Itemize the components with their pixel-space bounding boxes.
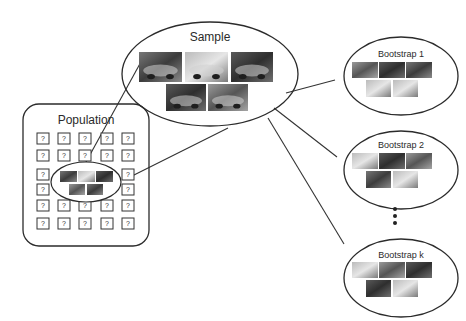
unknown-item: ? <box>122 184 134 195</box>
unknown-item: ? <box>58 150 70 161</box>
unknown-item: ? <box>79 218 91 229</box>
sample-to-bootstrapk-line <box>268 118 344 244</box>
car-thumbnail <box>87 184 103 195</box>
unknown-item: ? <box>58 218 70 229</box>
bootstrap-k-label: Bootstrap k <box>378 250 424 260</box>
unknown-item: ? <box>58 133 70 144</box>
car-thumbnail <box>352 62 378 78</box>
unknown-item: ? <box>122 218 134 229</box>
svg-text:?: ? <box>105 220 109 227</box>
svg-text:?: ? <box>83 220 87 227</box>
car-thumbnail <box>379 262 405 278</box>
unknown-item: ? <box>122 133 134 144</box>
unknown-item: ? <box>101 218 113 229</box>
car-thumbnail <box>406 62 432 78</box>
svg-text:?: ? <box>41 186 45 193</box>
unknown-item: ? <box>37 184 49 195</box>
sample-ellipse: Sample <box>122 22 298 126</box>
svg-text:?: ? <box>62 202 66 209</box>
svg-text:?: ? <box>83 135 87 142</box>
car-thumbnail <box>406 262 432 278</box>
car-thumbnail <box>231 52 273 82</box>
svg-text:?: ? <box>41 220 45 227</box>
car-thumbnail <box>352 153 378 169</box>
car-thumbnail <box>78 171 95 182</box>
svg-text:?: ? <box>62 152 66 159</box>
car-thumbnail <box>366 80 391 97</box>
car-thumbnail <box>406 153 432 169</box>
car-thumbnail <box>393 171 418 188</box>
unknown-item: ? <box>122 150 134 161</box>
sample-to-bootstrap2-line <box>274 108 337 157</box>
svg-text:?: ? <box>83 202 87 209</box>
unknown-item: ? <box>37 200 49 211</box>
unknown-item: ? <box>37 169 49 180</box>
bootstrap-2-label: Bootstrap 2 <box>378 140 424 150</box>
svg-text:?: ? <box>41 171 45 178</box>
svg-text:?: ? <box>126 171 130 178</box>
bootstrap-1-ellipse: Bootstrap 1 <box>344 37 458 115</box>
car-thumbnail <box>185 52 228 82</box>
bootstrap-k-ellipse: Bootstrap k <box>344 239 458 317</box>
svg-text:?: ? <box>41 152 45 159</box>
unknown-item: ? <box>79 133 91 144</box>
svg-text:?: ? <box>126 220 130 227</box>
car-thumbnail <box>208 84 248 111</box>
svg-text:?: ? <box>105 135 109 142</box>
svg-text:?: ? <box>83 152 87 159</box>
svg-text:?: ? <box>126 186 130 193</box>
svg-text:?: ? <box>126 135 130 142</box>
car-thumbnail <box>379 62 405 78</box>
svg-text:?: ? <box>62 220 66 227</box>
unknown-item: ? <box>37 218 49 229</box>
car-thumbnail <box>69 184 85 195</box>
svg-text:?: ? <box>41 135 45 142</box>
car-thumbnail <box>379 153 405 169</box>
unknown-item: ? <box>37 150 49 161</box>
car-thumbnail <box>366 171 391 188</box>
unknown-item: ? <box>37 133 49 144</box>
unknown-item: ? <box>58 200 70 211</box>
svg-text:?: ? <box>126 152 130 159</box>
bootstrap-2-ellipse: Bootstrap 2 <box>344 131 458 209</box>
unknown-item: ? <box>122 169 134 180</box>
unknown-item: ? <box>101 133 113 144</box>
svg-text:?: ? <box>126 202 130 209</box>
svg-text:?: ? <box>62 135 66 142</box>
car-thumbnail <box>96 171 113 182</box>
unknown-item: ? <box>79 150 91 161</box>
unknown-item: ? <box>122 200 134 211</box>
population-to-sample-line-2 <box>128 128 228 178</box>
sample-label: Sample <box>190 30 231 44</box>
car-thumbnail <box>366 280 391 297</box>
bootstrap-diagram: Population ? ? ? ? ? ? ? ? ? ? ? ? ? ? ?… <box>0 0 466 321</box>
ellipsis-dots <box>393 207 397 225</box>
car-thumbnail <box>393 280 418 297</box>
population-to-sample-line-1 <box>86 60 142 162</box>
svg-text:?: ? <box>105 202 109 209</box>
car-thumbnail <box>393 80 418 97</box>
population-sample-ellipse <box>51 162 121 202</box>
car-thumbnail <box>139 52 182 82</box>
unknown-item: ? <box>101 150 113 161</box>
svg-text:?: ? <box>105 152 109 159</box>
population-label: Population <box>58 113 115 127</box>
svg-text:?: ? <box>41 202 45 209</box>
sample-images <box>139 52 273 111</box>
car-thumbnail <box>166 84 206 111</box>
car-thumbnail <box>60 171 77 182</box>
unknown-item: ? <box>101 200 113 211</box>
population-box: Population ? ? ? ? ? ? ? ? ? ? ? ? ? ? ?… <box>23 104 149 246</box>
car-thumbnail <box>352 262 378 278</box>
bootstrap-1-label: Bootstrap 1 <box>378 49 424 59</box>
